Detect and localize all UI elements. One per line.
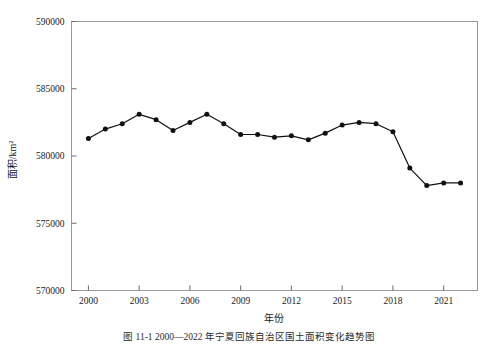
x-axis-tick-labels: 20002003200620092012201520182021 (79, 296, 454, 306)
data-point (221, 121, 226, 126)
data-point (458, 180, 463, 185)
data-point (441, 180, 446, 185)
data-point (374, 121, 379, 126)
x-tick-label: 2006 (180, 296, 199, 306)
y-tick-label: 570000 (36, 286, 65, 296)
data-series-line (88, 114, 460, 185)
data-point (204, 112, 209, 117)
data-point (289, 133, 294, 138)
data-point (137, 112, 142, 117)
data-point (306, 137, 311, 142)
data-point (272, 135, 277, 140)
figure-caption: 图 11-1 2000—2022 年宁夏回族自治区国土面积变化趋势图 (0, 331, 498, 343)
data-point (238, 132, 243, 137)
data-point (154, 117, 159, 122)
line-chart: 570000575000580000585000590000 200020032… (0, 0, 498, 344)
y-axis-ticks (72, 22, 77, 291)
x-tick-label: 2021 (434, 296, 453, 306)
x-axis-title: 年份 (264, 312, 284, 324)
y-tick-label: 580000 (36, 151, 65, 161)
x-tick-label: 2003 (130, 296, 149, 306)
y-tick-label: 575000 (36, 219, 65, 229)
data-point (340, 123, 345, 128)
x-tick-label: 2000 (79, 296, 98, 306)
data-point (103, 127, 108, 132)
data-point (323, 131, 328, 136)
data-point (390, 129, 395, 134)
x-tick-label: 2018 (383, 296, 402, 306)
data-point (357, 120, 362, 125)
figure-container: 570000575000580000585000590000 200020032… (0, 0, 498, 344)
x-tick-label: 2015 (333, 296, 352, 306)
data-point (187, 120, 192, 125)
data-point (407, 166, 412, 171)
data-point (120, 121, 125, 126)
x-tick-label: 2012 (282, 296, 301, 306)
x-tick-label: 2009 (231, 296, 250, 306)
y-axis-title: 面积/km² (7, 141, 18, 180)
x-axis-ticks (88, 286, 443, 291)
data-series-markers (86, 112, 463, 188)
plot-frame (72, 22, 478, 291)
y-tick-label: 585000 (36, 84, 65, 94)
data-point (171, 128, 176, 133)
data-point (255, 132, 260, 137)
data-point (424, 183, 429, 188)
data-point (86, 136, 91, 141)
y-tick-label: 590000 (36, 17, 65, 27)
y-axis-tick-labels: 570000575000580000585000590000 (36, 17, 65, 296)
